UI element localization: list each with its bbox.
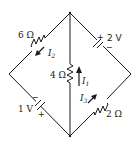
battery-1v-label: 1 V bbox=[18, 104, 34, 114]
branch-middle: 4 Ω I1 bbox=[50, 13, 89, 136]
wire-segment bbox=[70, 112, 94, 136]
wire-segment bbox=[9, 51, 32, 74]
current-i2-label: I2 bbox=[47, 48, 56, 59]
battery-2v-plus-sign: + bbox=[97, 33, 104, 42]
branch-top-left: 6 Ω I2 bbox=[9, 13, 70, 74]
resistor-4-ohm-label: 4 Ω bbox=[50, 70, 66, 80]
node-top bbox=[69, 12, 71, 14]
battery-2v-minus-sign: − bbox=[106, 43, 113, 52]
wire-segment bbox=[45, 13, 70, 38]
branch-top-right: + − 2 V bbox=[70, 13, 131, 74]
battery-2v-label: 2 V bbox=[107, 33, 123, 43]
battery-1v-minus-sign: − bbox=[32, 93, 39, 102]
wire-segment bbox=[107, 74, 131, 99]
branch-bottom-left: − + 1 V bbox=[9, 74, 70, 136]
current-i1-label: I1 bbox=[81, 76, 89, 87]
battery-1v-plus-sign: + bbox=[38, 110, 45, 119]
resistor-2-ohm-label: 2 Ω bbox=[106, 109, 122, 119]
current-i1-arrowhead bbox=[76, 66, 82, 73]
resistor-4-ohm bbox=[67, 64, 73, 83]
resistor-6-ohm-label: 6 Ω bbox=[18, 30, 34, 40]
node-bottom bbox=[69, 135, 71, 137]
current-i3-label: I3 bbox=[79, 93, 88, 104]
circuit-diagram: 6 Ω I2 + − 2 V 4 Ω I1 − + 1 V bbox=[0, 0, 140, 143]
